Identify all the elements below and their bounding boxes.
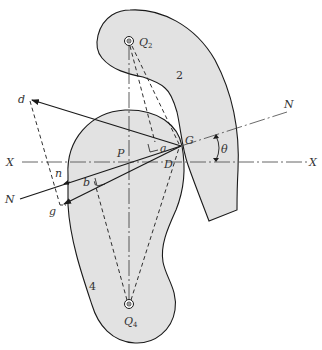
diagram-canvas: Q2 Q4 2 4 G D P a b d n g X X N N θ [0,0,322,350]
label-x-right: X [308,156,318,169]
label-body-2: 2 [176,69,183,82]
label-b-point: b [83,176,90,189]
label-d-vector: d [18,93,25,106]
pivot-q4-icon [125,300,134,309]
label-n-point: n [55,167,62,180]
label-g-vector: g [49,205,56,218]
label-p-point: P [116,147,125,160]
pivot-q2-icon [125,37,134,46]
label-n-left: N [4,193,15,206]
cam-diagram: Q2 Q4 2 4 G D P a b d n g X X N N θ [0,0,322,350]
dashed-d-g [30,101,60,205]
label-a-point: a [160,142,167,155]
label-d-point: D [163,158,173,171]
label-theta: θ [221,143,228,156]
label-g-point: G [185,134,194,147]
body-4 [68,110,184,343]
label-n-right: N [283,98,294,111]
label-x-left: X [5,156,15,169]
label-body-4: 4 [89,280,96,293]
